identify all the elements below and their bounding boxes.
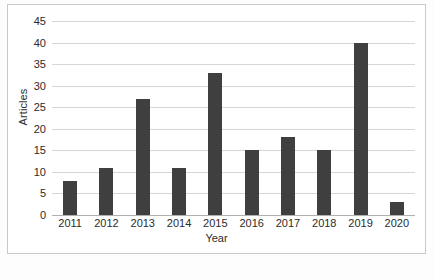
bar	[136, 99, 150, 215]
y-axis-tick-label: 25	[34, 101, 46, 113]
x-axis-tick-label: 2012	[94, 217, 118, 229]
y-axis-tick-label: 0	[40, 209, 46, 221]
gridline: 0	[52, 215, 415, 216]
bar-slot	[234, 21, 270, 215]
bar-slot	[161, 21, 197, 215]
x-axis-tick-label: 2018	[312, 217, 336, 229]
y-axis-tick-label: 15	[34, 144, 46, 156]
chart-frame: Articles 051015202530354045 201120122013…	[7, 4, 426, 254]
y-axis-title: Articles	[17, 62, 29, 152]
bar-slot	[52, 21, 88, 215]
x-axis-tick-label: 2015	[203, 217, 227, 229]
bar	[317, 150, 331, 215]
bar-slot	[379, 21, 415, 215]
bars-layer	[52, 21, 415, 215]
bar-slot	[197, 21, 233, 215]
bar-slot	[125, 21, 161, 215]
bar-chart-figure: Articles 051015202530354045 201120122013…	[0, 0, 434, 279]
x-axis-tick-label: 2020	[385, 217, 409, 229]
bar	[390, 202, 404, 215]
bar-slot	[342, 21, 378, 215]
y-axis-tick-label: 40	[34, 37, 46, 49]
x-axis-title: Year	[8, 232, 425, 244]
bar-slot	[270, 21, 306, 215]
x-axis-tick-label: 2019	[348, 217, 372, 229]
y-axis-tick-label: 10	[34, 166, 46, 178]
x-axis-tick-label: 2017	[276, 217, 300, 229]
bar-slot	[88, 21, 124, 215]
bar	[63, 181, 77, 215]
x-axis-tick-label: 2014	[167, 217, 191, 229]
plot-area: 051015202530354045	[52, 21, 415, 215]
x-axis-tick-label: 2013	[131, 217, 155, 229]
bar	[281, 137, 295, 215]
bar	[245, 150, 259, 215]
y-axis-tick-label: 30	[34, 80, 46, 92]
bar-slot	[306, 21, 342, 215]
bar	[208, 73, 222, 215]
x-axis-tick-label: 2011	[58, 217, 82, 229]
bar	[99, 168, 113, 215]
x-axis-tick-label: 2016	[239, 217, 263, 229]
y-axis-tick-label: 5	[40, 187, 46, 199]
y-axis-tick-label: 35	[34, 58, 46, 70]
x-axis-tick-labels: 2011201220132014201520162017201820192020	[52, 217, 415, 233]
y-axis-tick-label: 45	[34, 15, 46, 27]
y-axis-tick-label: 20	[34, 123, 46, 135]
bar	[354, 43, 368, 215]
bar	[172, 168, 186, 215]
